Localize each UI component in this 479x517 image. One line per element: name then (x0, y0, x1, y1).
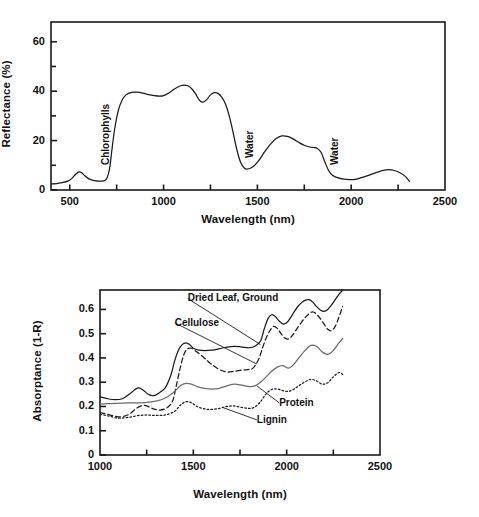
reflectance-x-axis-title: Wavelength (nm) (173, 213, 323, 225)
series-label-lignin: Lignin (257, 414, 287, 425)
annotation-chlorophylls: Chlorophylls (100, 104, 111, 165)
reflectance-chart-panel: Reflectance (%) Wavelength (nm) Chloroph… (0, 0, 479, 232)
y-tick-label: 40 (3, 84, 45, 96)
y-tick-label: 0 (3, 183, 45, 195)
y-tick-label: 0.2 (52, 399, 94, 411)
x-tick-label: 2000 (323, 195, 379, 207)
x-tick-label: 2500 (417, 195, 473, 207)
y-tick-label: 0 (52, 448, 94, 460)
reflectance-y-axis-title: Reflectance (%) (0, 29, 12, 179)
absorptance-y-axis-title: Absorptance (1-R) (31, 286, 43, 456)
y-tick-label: 0.1 (52, 424, 94, 436)
y-tick-label: 0.3 (52, 375, 94, 387)
absorptance-x-axis-title: Wavelength (nm) (165, 488, 315, 500)
y-tick-label: 0.4 (52, 351, 94, 363)
x-tick-label: 500 (42, 195, 98, 207)
absorptance-chart-panel: Absorptance (1-R) Wavelength (nm) Dried … (0, 240, 479, 517)
x-tick-label: 1500 (165, 460, 221, 472)
x-tick-label: 1500 (229, 195, 285, 207)
y-tick-label: 60 (3, 35, 45, 47)
x-tick-label: 2500 (352, 460, 408, 472)
annotation-leader-3 (223, 408, 257, 420)
series-curve-0 (100, 290, 343, 400)
y-tick-label: 20 (3, 134, 45, 146)
x-tick-label: 2000 (259, 460, 315, 472)
y-tick-label: 0.6 (52, 302, 94, 314)
spectral-figure: Reflectance (%) Wavelength (nm) Chloroph… (0, 0, 479, 517)
annotation-water-second: Water (329, 138, 340, 165)
x-tick-label: 1000 (72, 460, 128, 472)
annotation-water-first: Water (244, 130, 255, 157)
series-label-protein: Protein (279, 397, 313, 408)
x-tick-label: 1000 (136, 195, 192, 207)
series-curve-3 (100, 372, 343, 418)
y-tick-label: 0.5 (52, 327, 94, 339)
